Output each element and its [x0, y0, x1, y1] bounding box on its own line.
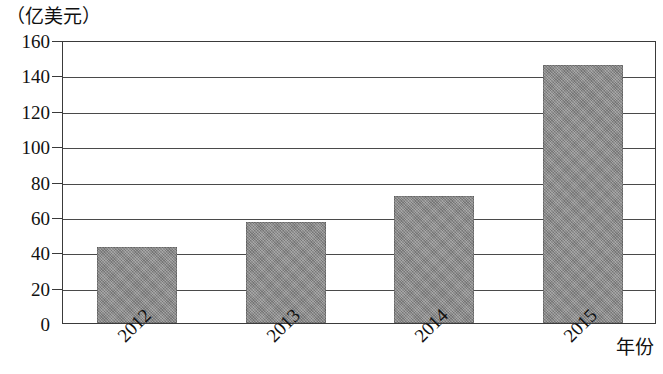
bar	[394, 196, 474, 323]
bar	[543, 65, 623, 323]
y-axis-tick-label: 120	[22, 102, 51, 121]
y-axis-tick-label: 140	[22, 67, 51, 86]
y-axis-tick-labels: 020406080100120140160	[0, 41, 58, 324]
y-axis-tick-mark	[52, 183, 62, 184]
y-axis-tick-mark	[52, 76, 62, 77]
y-axis-tick-label: 160	[22, 32, 51, 51]
y-axis-tick-mark	[52, 112, 62, 113]
y-axis-tick-label: 20	[31, 279, 50, 298]
y-axis-tick-mark	[52, 218, 62, 219]
y-axis-tick-label: 100	[22, 138, 51, 157]
y-axis-tick-mark	[52, 289, 62, 290]
plot-area	[62, 41, 656, 324]
y-axis-tick-label: 80	[31, 173, 50, 192]
y-axis-tick-mark	[52, 147, 62, 148]
y-axis-tick-label: 0	[41, 315, 51, 334]
y-axis-tick-label: 60	[31, 208, 50, 227]
x-axis-tick-labels: 2012201320142015	[62, 324, 656, 374]
y-axis-unit-label: （亿美元）	[6, 5, 101, 29]
y-axis-tick-label: 40	[31, 244, 50, 263]
bar-chart: （亿美元） 020406080100120140160 201220132014…	[0, 0, 663, 374]
y-axis-tick-mark	[52, 41, 62, 42]
x-axis-title: 年份	[616, 337, 654, 359]
y-axis-tick-mark	[52, 253, 62, 254]
